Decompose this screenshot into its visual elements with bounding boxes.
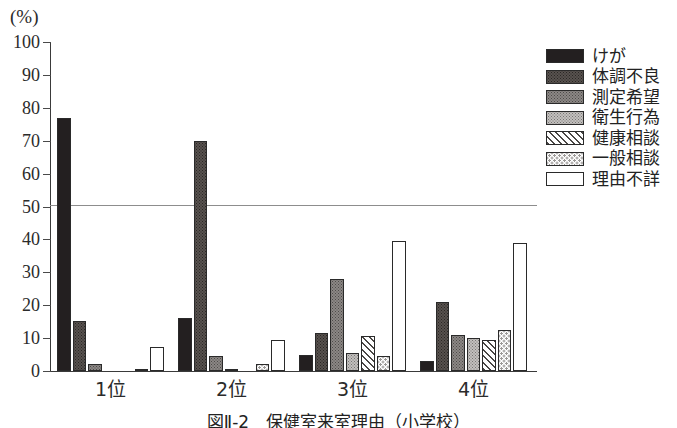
bar	[498, 330, 512, 371]
bar	[467, 338, 481, 371]
legend-item-5[interactable]: 健康相談	[546, 128, 676, 149]
x-axis-label-1: 1位	[50, 374, 171, 401]
y-axis-tick-label: 50	[0, 198, 40, 216]
legend-item-1[interactable]: けが	[546, 46, 676, 67]
bar-group	[420, 42, 527, 371]
y-axis-tick-label: 40	[0, 230, 40, 248]
x-axis-label-2: 2位	[171, 374, 292, 401]
legend-label: 体調不良	[592, 68, 660, 85]
bar	[436, 302, 450, 371]
legend-label: 衛生行為	[592, 109, 660, 126]
bar	[194, 141, 208, 371]
bar-group	[57, 42, 164, 371]
legend-item-7[interactable]: 理由不詳	[546, 169, 676, 190]
legend-swatch-icon	[546, 49, 584, 63]
y-axis-tick-label: 20	[0, 296, 40, 314]
bar	[420, 361, 434, 371]
bar	[135, 369, 149, 371]
y-axis-tick-label: 60	[0, 165, 40, 183]
legend-label: 一般相談	[592, 150, 660, 167]
legend-label: 理由不詳	[592, 171, 660, 188]
legend-item-4[interactable]: 衛生行為	[546, 108, 676, 129]
bar	[346, 353, 360, 371]
legend-label: 測定希望	[592, 89, 660, 106]
y-axis-tick-label: 10	[0, 329, 40, 347]
y-axis-tick-label: 80	[0, 99, 40, 117]
y-axis-tick-label: 70	[0, 132, 40, 150]
bar	[330, 279, 344, 371]
bar	[271, 340, 285, 371]
y-axis-tick-label: 0	[0, 362, 40, 380]
chart-legend: けが体調不良測定希望衛生行為健康相談一般相談理由不詳	[546, 46, 676, 190]
bar-groups	[50, 42, 534, 371]
bar	[256, 364, 270, 371]
bar	[392, 241, 406, 371]
bar-group	[299, 42, 406, 371]
legend-item-2[interactable]: 体調不良	[546, 67, 676, 88]
bar	[299, 355, 313, 371]
bar	[57, 118, 71, 371]
bar	[361, 336, 375, 371]
y-axis-tick-label: 90	[0, 66, 40, 84]
bar	[482, 340, 496, 371]
y-axis-tick-label: 100	[0, 33, 40, 51]
bar	[209, 356, 223, 371]
legend-label: けが	[592, 48, 626, 65]
legend-swatch-icon	[546, 152, 584, 166]
x-axis-line	[50, 371, 537, 372]
x-axis-label-4: 4位	[413, 374, 534, 401]
bar	[377, 356, 391, 371]
legend-item-6[interactable]: 一般相談	[546, 149, 676, 170]
legend-swatch-icon	[546, 70, 584, 84]
legend-swatch-icon	[546, 111, 584, 125]
legend-swatch-icon	[546, 172, 584, 186]
x-axis-label-3: 3位	[292, 374, 413, 401]
plot-area: 1009080706050403020100 1位2位3位4位	[0, 0, 545, 392]
chart-figure: (%) 1009080706050403020100 1位2位3位4位 けが体調…	[0, 0, 677, 428]
y-axis-tick	[43, 371, 51, 372]
bar-group	[178, 42, 285, 371]
bar	[178, 318, 192, 371]
bar	[150, 347, 164, 371]
legend-swatch-icon	[546, 90, 584, 104]
bar	[225, 369, 239, 371]
bar	[88, 364, 102, 371]
figure-caption: 図Ⅱ-2 保健室来室理由（小学校）	[0, 408, 677, 428]
bar	[73, 321, 87, 371]
y-axis-tick-label: 30	[0, 263, 40, 281]
legend-item-3[interactable]: 測定希望	[546, 87, 676, 108]
bar	[315, 333, 329, 371]
legend-swatch-icon	[546, 131, 584, 145]
bar	[513, 243, 527, 371]
legend-label: 健康相談	[592, 130, 660, 147]
bar	[451, 335, 465, 371]
